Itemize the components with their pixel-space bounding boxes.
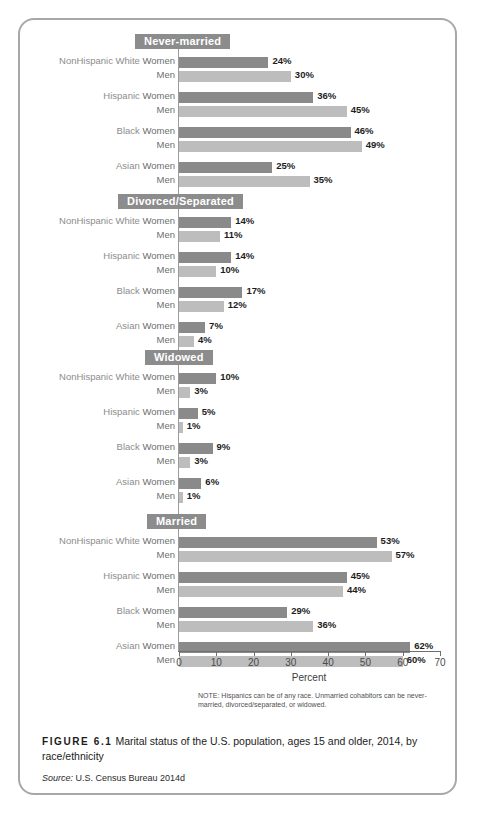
bar-women bbox=[179, 408, 198, 419]
bar-men bbox=[179, 71, 291, 82]
row-category-label: Asian bbox=[116, 476, 142, 487]
bar-men bbox=[179, 457, 190, 468]
row-category-label: Asian bbox=[116, 160, 142, 171]
figure-source: Source: U.S. Census Bureau 2014d bbox=[42, 773, 442, 783]
bar-women bbox=[179, 443, 213, 454]
bar-row-label: Asian Women bbox=[25, 320, 175, 331]
x-tick-label: 60 bbox=[397, 657, 408, 668]
row-sex-label: Men bbox=[157, 174, 175, 185]
bar-women bbox=[179, 572, 347, 583]
bar-row-label: Men bbox=[25, 174, 175, 185]
bar-row: Men4% bbox=[20, 336, 459, 347]
row-category-label: Hispanic bbox=[103, 570, 142, 581]
bar-row: NonHispanic White Women14% bbox=[20, 217, 459, 228]
bar-row-label: Men bbox=[25, 264, 175, 275]
row-sex-label: Men bbox=[157, 104, 175, 115]
bar-row: NonHispanic White Women24% bbox=[20, 57, 459, 68]
bar-value-label: 36% bbox=[317, 90, 336, 101]
bar-row-label: Men bbox=[25, 139, 175, 150]
bar-value-label: 14% bbox=[235, 215, 254, 226]
bar-value-label: 35% bbox=[314, 174, 333, 185]
row-category-label: NonHispanic White bbox=[59, 535, 142, 546]
row-category-label: Hispanic bbox=[103, 250, 142, 261]
bar-row: Men35% bbox=[20, 176, 459, 187]
bar-women bbox=[179, 537, 377, 548]
bar-row: Hispanic Women14% bbox=[20, 252, 459, 263]
row-sex-label: Men bbox=[157, 229, 175, 240]
bar-row: Black Women17% bbox=[20, 287, 459, 298]
row-sex-label: Men bbox=[157, 385, 175, 396]
row-category-label: Black bbox=[117, 285, 143, 296]
x-tick bbox=[291, 651, 292, 656]
bar-row-label: Asian Women bbox=[25, 476, 175, 487]
bar-row: Men57% bbox=[20, 551, 459, 562]
bar-men bbox=[179, 176, 310, 187]
bar-value-label: 1% bbox=[187, 420, 201, 431]
bar-row: Asian Women6% bbox=[20, 478, 459, 489]
bar-row: NonHispanic White Women53% bbox=[20, 537, 459, 548]
row-sex-label: Men bbox=[157, 420, 175, 431]
bar-row-label: NonHispanic White Women bbox=[25, 371, 175, 382]
bar-row: Men10% bbox=[20, 266, 459, 277]
x-tick bbox=[254, 651, 255, 656]
x-tick bbox=[403, 651, 404, 656]
bar-value-label: 45% bbox=[351, 570, 370, 581]
row-category-label: Asian bbox=[116, 320, 142, 331]
bar-value-label: 6% bbox=[205, 476, 219, 487]
bar-row-label: Black Women bbox=[25, 605, 175, 616]
bar-value-label: 9% bbox=[217, 441, 231, 452]
row-sex-label: Women bbox=[142, 90, 175, 101]
x-tick-label: 30 bbox=[285, 657, 296, 668]
row-sex-label: Men bbox=[157, 549, 175, 560]
row-sex-label: Women bbox=[142, 55, 175, 66]
bar-row-label: Men bbox=[25, 584, 175, 595]
bar-women bbox=[179, 217, 231, 228]
x-tick-label: 40 bbox=[323, 657, 334, 668]
row-sex-label: Women bbox=[142, 215, 175, 226]
bar-row-label: NonHispanic White Women bbox=[25, 55, 175, 66]
group-badge: Never-married bbox=[135, 34, 230, 49]
row-sex-label: Men bbox=[157, 584, 175, 595]
bar-chart: Never-marriedNonHispanic White Women24%M… bbox=[20, 20, 459, 695]
bar-row-label: NonHispanic White Women bbox=[25, 535, 175, 546]
bar-men bbox=[179, 141, 362, 152]
bar-women bbox=[179, 322, 205, 333]
row-sex-label: Men bbox=[157, 69, 175, 80]
bar-row: Men12% bbox=[20, 301, 459, 312]
bar-row-label: Men bbox=[25, 104, 175, 115]
bar-row-label: Hispanic Women bbox=[25, 406, 175, 417]
row-sex-label: Women bbox=[142, 441, 175, 452]
bar-women bbox=[179, 252, 231, 263]
x-tick-label: 20 bbox=[248, 657, 259, 668]
figure-card: Never-marriedNonHispanic White Women24%M… bbox=[18, 18, 457, 795]
bar-row: Asian Women25% bbox=[20, 162, 459, 173]
bar-value-label: 7% bbox=[209, 320, 223, 331]
chart-note: NOTE: Hispanics can be of any race. Unma… bbox=[198, 691, 448, 709]
row-sex-label: Women bbox=[142, 640, 175, 651]
bar-men bbox=[179, 586, 343, 597]
bar-row: Men36% bbox=[20, 621, 459, 632]
bar-row-label: Men bbox=[25, 549, 175, 560]
bar-row-label: Men bbox=[25, 385, 175, 396]
bar-value-label: 14% bbox=[235, 250, 254, 261]
row-category-label: Black bbox=[117, 125, 143, 136]
bar-women bbox=[179, 287, 242, 298]
bar-men bbox=[179, 336, 194, 347]
bar-row-label: Hispanic Women bbox=[25, 250, 175, 261]
bar-men bbox=[179, 621, 313, 632]
row-sex-label: Women bbox=[142, 160, 175, 171]
bar-row-label: Black Women bbox=[25, 285, 175, 296]
row-sex-label: Men bbox=[157, 654, 175, 665]
row-category-label: Hispanic bbox=[103, 406, 142, 417]
bar-row-label: Men bbox=[25, 490, 175, 501]
bar-row-label: Men bbox=[25, 334, 175, 345]
row-category-label: NonHispanic White bbox=[59, 55, 142, 66]
bar-row-label: NonHispanic White Women bbox=[25, 215, 175, 226]
bar-value-label: 44% bbox=[347, 584, 366, 595]
bar-value-label: 62% bbox=[414, 640, 433, 651]
bar-value-label: 49% bbox=[366, 139, 385, 150]
x-tick bbox=[179, 651, 180, 656]
bar-value-label: 36% bbox=[317, 619, 336, 630]
bar-row: Men1% bbox=[20, 422, 459, 433]
bar-value-label: 46% bbox=[355, 125, 374, 136]
